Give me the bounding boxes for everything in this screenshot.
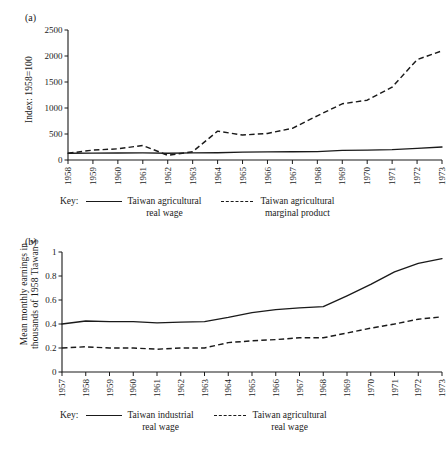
svg-text:1961: 1961 bbox=[152, 379, 162, 397]
legend-key-label-b: Key: bbox=[60, 410, 78, 422]
svg-text:0: 0 bbox=[52, 367, 57, 377]
svg-text:1961: 1961 bbox=[138, 167, 148, 185]
svg-text:0.4: 0.4 bbox=[45, 319, 57, 329]
panel-b-plot: 00.20.40.60.8119571958195919601961196219… bbox=[26, 244, 446, 424]
svg-text:1960: 1960 bbox=[128, 379, 138, 398]
svg-text:1972: 1972 bbox=[413, 379, 423, 397]
svg-text:1966: 1966 bbox=[263, 167, 273, 186]
legend-label-b-1-line1: Taiwan agricultural bbox=[253, 410, 327, 422]
svg-text:1500: 1500 bbox=[45, 77, 64, 87]
legend-label-a-1-line1: Taiwan agricultural bbox=[260, 196, 334, 208]
svg-text:1: 1 bbox=[52, 247, 57, 257]
svg-text:0.2: 0.2 bbox=[45, 343, 56, 353]
svg-text:1960: 1960 bbox=[113, 167, 123, 186]
svg-text:1963: 1963 bbox=[200, 379, 210, 398]
svg-text:1973: 1973 bbox=[437, 379, 446, 398]
svg-text:1962: 1962 bbox=[163, 167, 173, 185]
legend-swatch-dashed-icon bbox=[212, 410, 248, 422]
svg-text:1962: 1962 bbox=[176, 379, 186, 397]
panel-a-plot: 0500100015002000250019581959196019611962… bbox=[26, 18, 446, 218]
legend-swatch-solid-icon bbox=[86, 196, 122, 208]
svg-text:1968: 1968 bbox=[318, 379, 328, 398]
legend-entry-b-0: Taiwan industrial real wage bbox=[86, 410, 193, 433]
legend-label-b-0-line2: real wage bbox=[127, 422, 193, 434]
svg-text:1000: 1000 bbox=[45, 103, 64, 113]
svg-text:1964: 1964 bbox=[223, 379, 233, 398]
svg-text:1964: 1964 bbox=[213, 167, 223, 186]
svg-text:1969: 1969 bbox=[337, 167, 347, 186]
svg-text:1965: 1965 bbox=[238, 167, 248, 186]
svg-text:1971: 1971 bbox=[390, 379, 400, 397]
svg-text:0.8: 0.8 bbox=[45, 271, 57, 281]
legend-swatch-solid-icon bbox=[86, 410, 122, 422]
svg-text:1966: 1966 bbox=[271, 379, 281, 398]
svg-text:1963: 1963 bbox=[188, 167, 198, 186]
chart-panel-b: (b) Mean monthly earnings in thousands o… bbox=[0, 232, 446, 449]
svg-text:1959: 1959 bbox=[105, 379, 115, 398]
svg-text:1958: 1958 bbox=[63, 167, 73, 186]
legend-entry-a-1: Taiwan agricultural marginal product bbox=[219, 196, 334, 219]
svg-text:1959: 1959 bbox=[88, 167, 98, 186]
svg-text:500: 500 bbox=[49, 129, 63, 139]
svg-text:2500: 2500 bbox=[45, 25, 64, 35]
legend-label-b-1-line2: real wage bbox=[253, 422, 327, 434]
svg-text:2000: 2000 bbox=[45, 51, 64, 61]
svg-text:1965: 1965 bbox=[247, 379, 257, 398]
svg-text:1967: 1967 bbox=[288, 167, 298, 186]
svg-text:0.6: 0.6 bbox=[45, 295, 57, 305]
panel-a-legend: Key: Taiwan agricultural real wage Taiwa… bbox=[60, 196, 352, 219]
svg-text:1957: 1957 bbox=[57, 379, 67, 398]
svg-text:1971: 1971 bbox=[387, 167, 397, 185]
chart-panel-a: (a) Index: 1958=100 05001000150020002500… bbox=[0, 0, 446, 232]
legend-label-a-1-line2: marginal product bbox=[260, 208, 334, 220]
legend-entry-b-1: Taiwan agricultural real wage bbox=[212, 410, 327, 433]
legend-key-label-a: Key: bbox=[60, 196, 78, 208]
legend-label-a-0-line2: real wage bbox=[127, 208, 201, 220]
svg-text:1970: 1970 bbox=[366, 379, 376, 398]
svg-text:1969: 1969 bbox=[342, 379, 352, 398]
svg-text:1972: 1972 bbox=[412, 167, 422, 185]
svg-text:1968: 1968 bbox=[313, 167, 323, 186]
legend-label-b-0-line1: Taiwan industrial bbox=[127, 410, 193, 422]
svg-text:1970: 1970 bbox=[362, 167, 372, 186]
legend-entry-a-0: Taiwan agricultural real wage bbox=[86, 196, 201, 219]
svg-text:1973: 1973 bbox=[437, 167, 446, 186]
svg-text:1958: 1958 bbox=[81, 379, 91, 398]
legend-label-a-0-line1: Taiwan agricultural bbox=[127, 196, 201, 208]
svg-text:1967: 1967 bbox=[295, 379, 305, 398]
legend-swatch-dashed-icon bbox=[219, 196, 255, 208]
panel-b-legend: Key: Taiwan industrial real wage Taiwan … bbox=[60, 410, 345, 433]
svg-text:0: 0 bbox=[58, 155, 63, 165]
